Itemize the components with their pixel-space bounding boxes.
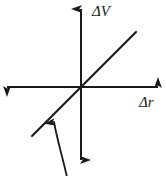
figure-container: ΔV Δr (0, 0, 166, 176)
curved-annotation-arrow (54, 122, 67, 176)
data-line (32, 32, 136, 136)
x-axis-label: Δr (139, 95, 154, 110)
y-axis-label: ΔV (92, 4, 110, 19)
graph-canvas (0, 0, 166, 176)
